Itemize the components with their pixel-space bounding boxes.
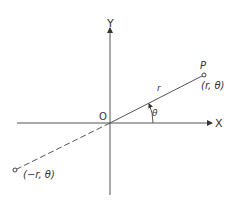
x-axis-label: X	[215, 117, 223, 130]
y-axis-label: Y	[106, 17, 114, 30]
point-p-label: P	[200, 60, 207, 71]
point-negative-marker	[13, 168, 17, 172]
angle-theta-label: θ	[152, 108, 158, 118]
origin-label: O	[99, 111, 107, 122]
point-negative-coords-label: (−r, θ)	[23, 169, 55, 180]
polar-coordinate-diagram: Y X O P (r, θ) r θ (−r, θ)	[0, 0, 238, 207]
point-p-coords-label: (r, θ)	[201, 80, 224, 91]
dashed-ray-negative	[17, 123, 110, 169]
ray-r-label: r	[157, 83, 162, 93]
point-p-marker	[202, 73, 206, 77]
